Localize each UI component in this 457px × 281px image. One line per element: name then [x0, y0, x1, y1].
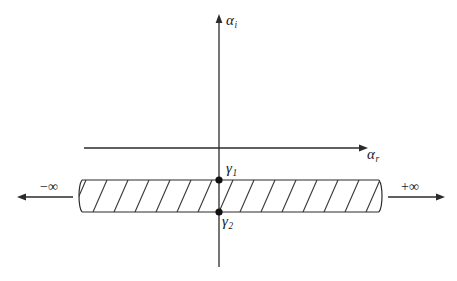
figure-canvas: αi αr γ1 γ2 −∞ +∞ [0, 0, 457, 281]
gamma-1-label: γ1 [226, 161, 237, 178]
real-axis-label-subscript: r [375, 154, 379, 164]
real-axis-label-base: α [367, 146, 375, 162]
neg-infinity-label: −∞ [40, 180, 58, 194]
pos-infinity-arrowhead [436, 194, 445, 201]
gamma-2-label-subscript: 2 [228, 221, 233, 231]
imaginary-axis-arrowhead [216, 14, 223, 23]
imaginary-axis-label-base: α [226, 12, 234, 28]
branch-cut-strip [72, 180, 401, 212]
pos-infinity-label: +∞ [401, 180, 419, 194]
gamma-2-label: γ2 [222, 214, 233, 231]
real-axis-label: αr [367, 147, 379, 164]
gamma-1-point [215, 176, 222, 183]
diagram-svg [0, 0, 457, 281]
gamma-1-label-subscript: 1 [232, 168, 237, 178]
neg-infinity-arrowhead [17, 194, 26, 201]
imaginary-axis-label: αi [226, 13, 237, 30]
imaginary-axis-label-subscript: i [234, 20, 237, 30]
